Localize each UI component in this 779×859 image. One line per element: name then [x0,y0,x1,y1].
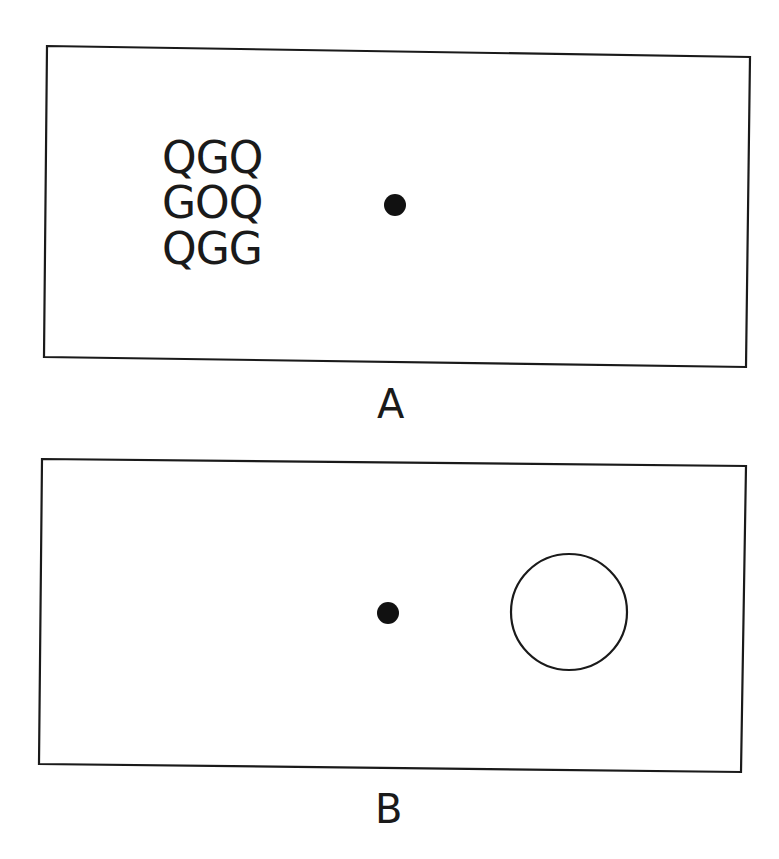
fixation-dot-a [384,194,406,216]
panel-a: QGQ GOQ QGG [44,46,750,367]
figure-canvas: QGQ GOQ QGG A B [0,0,779,859]
letter-row-2: GOQ [162,177,262,228]
panel-a-label: A [377,381,405,427]
letter-row-1: QGQ [162,132,262,183]
letter-row-3: QGG [162,223,262,274]
panel-b [39,459,746,772]
fixation-dot-b [377,602,399,624]
panel-b-label: B [375,786,402,832]
